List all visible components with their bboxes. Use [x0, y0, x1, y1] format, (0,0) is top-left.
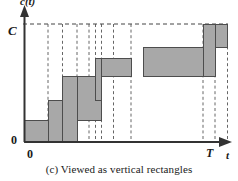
figure-caption: (c) Viewed as vertical rectangles	[0, 163, 238, 175]
y-axis-c-label: C	[8, 24, 17, 37]
vertical-rectangles-plot	[0, 0, 238, 181]
y-axis-name-label: c(t)	[20, 0, 35, 7]
figure-container: c(t) C 0 0 T t (c) Viewed as vertical re…	[0, 0, 238, 181]
rectangle-series	[25, 24, 228, 142]
rectangle-r1	[25, 120, 49, 142]
y-axis-origin-label: 0	[11, 134, 17, 146]
rectangle-r6	[102, 58, 132, 76]
rectangle-r8	[203, 24, 215, 76]
rectangle-r5	[96, 58, 102, 100]
rectangle-r9	[215, 24, 228, 47]
rectangle-r2	[48, 100, 63, 142]
rectangle-r3	[63, 76, 78, 142]
x-axis-t-end-label: T	[206, 147, 213, 159]
x-axis-origin-label: 0	[27, 148, 33, 160]
x-axis-name-label: t	[226, 150, 229, 161]
rectangle-r7	[143, 47, 203, 76]
